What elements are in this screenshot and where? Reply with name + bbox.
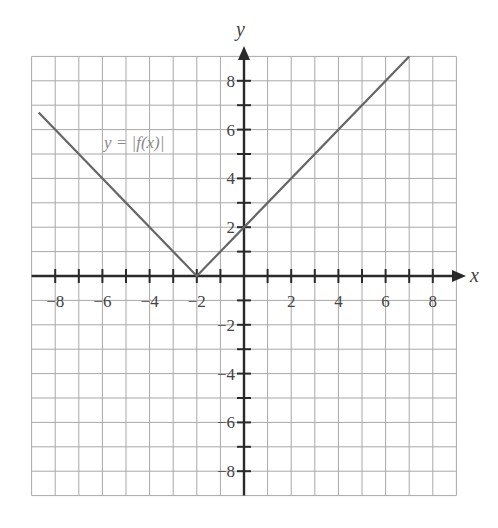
y-tick-label: −2 — [217, 316, 235, 335]
x-tick-label: −4 — [141, 292, 160, 311]
y-tick-label: 2 — [227, 218, 236, 237]
x-tick-label: 4 — [334, 292, 343, 311]
x-axis-label: x — [469, 264, 479, 286]
y-tick-label: 4 — [227, 169, 236, 188]
x-tick-label: 8 — [429, 292, 438, 311]
x-tick-label: −6 — [93, 292, 111, 311]
axes — [32, 46, 466, 496]
y-tick-label: 6 — [227, 121, 236, 140]
y-tick-label: −6 — [217, 413, 235, 432]
y-tick-label: −8 — [217, 462, 235, 481]
x-tick-label: −8 — [46, 292, 64, 311]
x-tick-label: 2 — [287, 292, 296, 311]
absolute-value-curve — [39, 56, 410, 276]
x-tick-label: 6 — [381, 292, 390, 311]
function-graph: −8−6−4−224688642−2−4−6−8 x y y = |f(x)| — [0, 0, 498, 528]
curve-label: y = |f(x)| — [102, 133, 164, 152]
y-tick-label: −4 — [217, 365, 236, 384]
y-tick-label: 8 — [227, 72, 236, 91]
x-tick-label: −2 — [188, 292, 206, 311]
y-axis-label: y — [234, 18, 245, 41]
